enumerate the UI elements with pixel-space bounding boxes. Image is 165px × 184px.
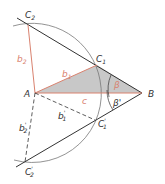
label-B: B [148, 89, 154, 99]
segment-b2 [28, 25, 35, 93]
label-beta-prime: β' [112, 98, 121, 108]
label-C1: C1 [96, 54, 106, 65]
label-b2: b2 [17, 54, 27, 65]
label-c: c [82, 96, 87, 106]
geometry-figure: A B C1 C2 C'1 C'2 b2 b1 c b'1 b'2 β β' [0, 0, 165, 184]
label-b1: b1 [62, 69, 72, 80]
label-C1-prime: C'1 [98, 117, 107, 130]
label-C2-prime: C'2 [25, 165, 34, 178]
label-C2: C2 [25, 10, 35, 21]
label-b2-prime: b'2 [19, 121, 27, 134]
line-lower [16, 93, 142, 167]
label-A: A [23, 89, 30, 99]
label-beta: β [113, 80, 120, 90]
label-b1-prime: b'1 [58, 109, 66, 122]
